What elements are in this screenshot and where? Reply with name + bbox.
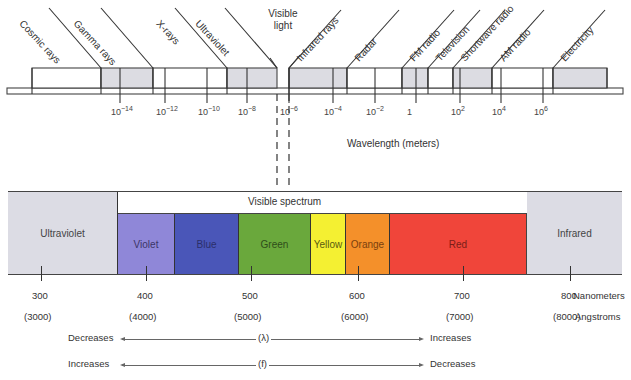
tick-nanometers: 700	[454, 290, 470, 301]
region-shortwave-radio	[453, 68, 492, 88]
tick-label: 106	[534, 105, 548, 117]
unit-nanometers: Nanometers	[573, 290, 625, 301]
tick-angstroms: (6000)	[341, 311, 368, 322]
tick-angstroms: (4000)	[129, 311, 156, 322]
arrowhead-left-icon	[120, 337, 125, 341]
wavelength-axis-title: Wavelength (meters)	[347, 138, 439, 149]
tick-label: 104	[492, 105, 506, 117]
spectrum-tick	[570, 266, 571, 281]
band-green: Green	[239, 214, 311, 274]
tick-label: 1	[407, 107, 412, 117]
tick-angstroms: (3000)	[24, 311, 51, 322]
arrow-left-label: Increases	[68, 358, 109, 369]
unit-angstroms: Angstroms	[575, 311, 620, 322]
band-red: Red	[390, 214, 527, 274]
band-yellow: Yellow	[311, 214, 346, 274]
tick-label: 10−4	[324, 105, 342, 117]
spectrum-tick	[251, 266, 252, 281]
band-label: Orange	[351, 239, 384, 250]
region-x-rays	[153, 68, 227, 88]
band-label: Yellow	[314, 239, 343, 250]
tick-nanometers: 500	[242, 290, 258, 301]
band-label: Infrared	[557, 228, 591, 239]
band-blue: Blue	[175, 214, 239, 274]
tick-label: 102	[451, 105, 465, 117]
visible-light-label: Visible light	[258, 8, 308, 32]
region-label: Electricity	[558, 25, 595, 64]
arrowhead-right-icon	[419, 363, 424, 367]
visible-light-line2: light	[258, 20, 308, 32]
region-label: Cosmic rays	[17, 18, 63, 66]
region-gamma-rays	[101, 68, 153, 88]
tick-angstroms: (7000)	[446, 311, 473, 322]
tick-label: 10−10	[198, 105, 220, 117]
arrow-symbol: (λ)	[256, 332, 271, 343]
tick-nanometers: 600	[349, 290, 365, 301]
region-ultraviolet	[227, 68, 277, 88]
region-electricity	[553, 68, 607, 88]
arrow-left-label: Decreases	[68, 332, 113, 343]
visible-light-line1: Visible	[258, 8, 308, 20]
tick-label: 10−2	[366, 105, 384, 117]
spectrum-tick	[146, 266, 147, 281]
visible-spectrum-header: Visible spectrum	[118, 192, 527, 214]
region-cosmic-rays	[32, 68, 101, 88]
arrow-symbol: (f)	[256, 358, 269, 369]
tick-label: 10−14	[111, 105, 133, 117]
region-label: AM radio	[497, 26, 533, 63]
tick-label: 10−8	[238, 105, 256, 117]
band-orange: Orange	[346, 214, 390, 274]
region-infrared-rays	[289, 68, 347, 88]
visible-spectrum-title: Visible spectrum	[248, 196, 321, 207]
arrowhead-left-icon	[120, 363, 125, 367]
band-label: Green	[261, 239, 289, 250]
spectrum-tick	[358, 266, 359, 281]
region-label: Radar	[352, 35, 379, 63]
band-infrared: Infrared	[527, 192, 622, 274]
band-ultraviolet: Ultraviolet	[8, 192, 118, 274]
band-violet: Violet	[118, 214, 175, 274]
region-fm-radio	[402, 68, 428, 88]
tick-angstroms: (5000)	[234, 311, 261, 322]
double-arrow-line	[122, 365, 420, 366]
electromagnetic-spectrum-scale: Cosmic raysGamma raysX-raysUltravioletIn…	[0, 0, 631, 200]
band-label: Ultraviolet	[40, 228, 84, 239]
region-television	[428, 68, 453, 88]
spectrum-tick	[41, 266, 42, 281]
scale-baseline-bar	[7, 88, 623, 94]
band-label: Red	[449, 239, 467, 250]
band-label: Blue	[196, 239, 216, 250]
tick-label: 10−12	[156, 105, 178, 117]
tick-nanometers: 400	[137, 290, 153, 301]
spectrum-tick	[463, 266, 464, 281]
region-label: X-rays	[154, 18, 182, 47]
arrowhead-right-icon	[419, 337, 424, 341]
tick-nanometers: 300	[32, 290, 48, 301]
arrow-right-label: Decreases	[430, 358, 475, 369]
band-label: Violet	[134, 239, 159, 250]
arrow-right-label: Increases	[430, 332, 471, 343]
